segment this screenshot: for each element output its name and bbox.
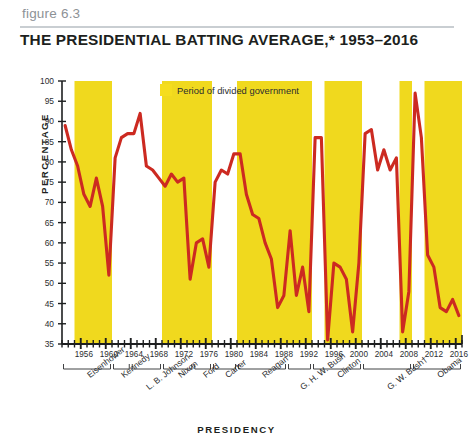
y-tick-label: 40	[30, 319, 54, 329]
y-tick-label: 45	[30, 299, 54, 309]
divided-government-band	[425, 81, 463, 344]
divided-government-band	[237, 81, 312, 344]
y-tick-label: 85	[30, 137, 54, 147]
legend-swatch-divided-government	[160, 84, 172, 96]
y-tick-label: 55	[30, 258, 54, 268]
figure-container: figure 6.3 THE PRESIDENTIAL BATTING AVER…	[0, 0, 473, 446]
legend-label-divided-government: Period of divided government	[177, 85, 299, 96]
y-tick-label: 75	[30, 177, 54, 187]
y-tick-label: 35	[30, 339, 54, 349]
x-axis-title: PRESIDENCY	[0, 424, 473, 435]
chart-plot-area: PERCENTAGE PRESIDENCY 354045505560657075…	[0, 0, 473, 446]
y-tick-label: 70	[30, 197, 54, 207]
y-tick-label: 100	[30, 76, 54, 86]
y-tick-label: 90	[30, 116, 54, 126]
y-tick-label: 50	[30, 278, 54, 288]
y-tick-label: 60	[30, 238, 54, 248]
y-tick-label: 95	[30, 96, 54, 106]
y-tick-label: 65	[30, 218, 54, 228]
divided-government-band	[75, 81, 113, 344]
y-tick-label: 80	[30, 157, 54, 167]
